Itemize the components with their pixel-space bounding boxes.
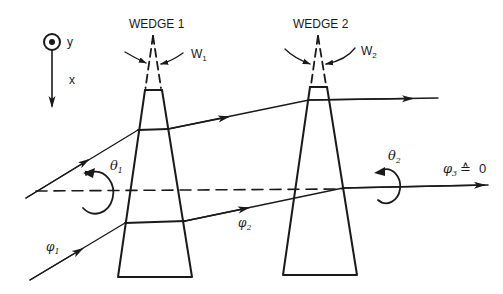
wedge-2-title: WEDGE 2 [293, 17, 349, 31]
upper-ray [26, 98, 438, 198]
wedge-2: WEDGE 2 W2 [283, 17, 377, 275]
wedge-1-angle-label: W1 [191, 47, 207, 63]
wedge-2-angle-label: W2 [361, 44, 377, 60]
theta-1-label: θ1 [110, 158, 123, 175]
wedge-2-body [283, 87, 357, 275]
phi-1-label: φ1 [46, 240, 60, 256]
wedge-1-angle-arrow-right [161, 53, 183, 64]
lower-ray [30, 185, 488, 280]
phi-2-label: φ2 [238, 216, 252, 232]
wedge-2-angle-arrow-left [285, 49, 310, 64]
y-axis-label: y [67, 35, 73, 49]
wedge-1-title: WEDGE 1 [129, 17, 185, 31]
wedge-2-angle-arrow-right [326, 48, 355, 64]
x-axis-label: x [69, 73, 75, 87]
coordinate-system: y x [44, 34, 75, 106]
theta-1-rotation-arrowhead [83, 168, 95, 178]
wedge-1-angle-arrow-left [125, 52, 146, 63]
theta-1-rotation-arrow-icon [83, 172, 113, 214]
wedge-1-body [118, 90, 192, 277]
theta-2-label: θ2 [388, 148, 401, 165]
wedge-1: WEDGE 1 W1 [118, 17, 207, 277]
phi-3-output-label: φ3≙0 [443, 161, 486, 178]
theta-2-rotation-arrowhead [374, 167, 385, 176]
wedge-prism-diagram: y x WEDGE 1 W1 WEDGE 2 W2 [0, 0, 503, 294]
